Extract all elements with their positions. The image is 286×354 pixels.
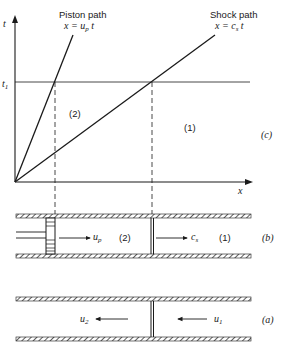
region-2-label-c: (2) — [69, 108, 81, 119]
tube-wall-bottom-b — [16, 254, 251, 258]
panel-a-shock-frame: u2 u1 (a) — [16, 297, 274, 341]
t-axis-arrow-icon — [12, 15, 18, 23]
shock-path-line — [15, 35, 215, 182]
x-axis-arrow-icon — [245, 179, 253, 185]
tube-wall-top-a — [16, 297, 251, 301]
tube-wall-bottom-a — [16, 337, 251, 341]
panel-a-label: (a) — [262, 314, 274, 326]
piston-velocity-label: up — [93, 231, 102, 244]
panel-c-xt-diagram: t x t1 Piston path x = up t Shock path x… — [2, 9, 273, 215]
piston-path-title: Piston path — [59, 9, 107, 20]
x-axis-label: x — [237, 185, 243, 196]
shock-path-title: Shock path — [210, 9, 258, 20]
region-2-label-b: (2) — [119, 232, 131, 243]
t-axis-label: t — [3, 18, 6, 29]
shock-tube-diagram: t x t1 Piston path x = up t Shock path x… — [0, 0, 286, 354]
region-1-label-b: (1) — [219, 232, 231, 243]
shock-path-equation: x = cs t — [214, 20, 244, 33]
panel-b-label: (b) — [262, 232, 274, 244]
piston-path-equation: x = up t — [63, 20, 94, 33]
region-1-label-c: (1) — [184, 122, 196, 133]
t1-label: t1 — [2, 78, 8, 91]
u2-label: u2 — [80, 313, 89, 326]
tube-wall-top-b — [16, 214, 251, 218]
panel-b-shock-tube: up (2) cs (1) (b) — [16, 214, 274, 258]
u1-label: u1 — [214, 313, 223, 326]
shock-velocity-label: cs — [191, 231, 198, 244]
panel-c-label: (c) — [261, 129, 273, 141]
piston-head — [46, 218, 55, 254]
